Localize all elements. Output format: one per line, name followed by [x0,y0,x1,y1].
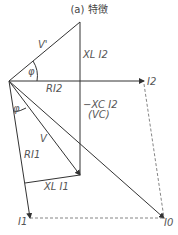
ri2-label: RI2 [46,83,62,94]
ri1-label: RI1 [24,149,40,160]
phi-top-label: φ [28,66,35,77]
phi-bottom-label: φ [13,103,20,114]
i2-label: I2 [147,76,156,87]
v-label: V [40,133,48,144]
phasor-diagram: V' φ XL I2 RI2 I2 −XC I2 (VC) φ V RI1 XL… [0,0,178,235]
i0-label: I0 [164,217,173,228]
xl-i2-label: XL I2 [82,49,108,60]
xl-i1-label: XL I1 [43,181,69,192]
vc-label: (VC) [88,109,110,120]
v-prime-label: V' [38,39,48,50]
i1-label: I1 [18,216,27,227]
